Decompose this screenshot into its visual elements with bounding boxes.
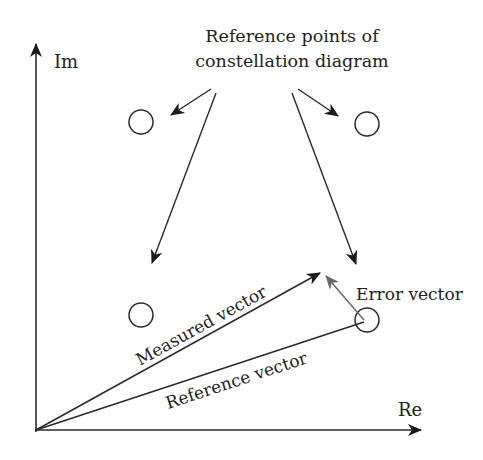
callout-arrow-bottom-left <box>152 93 216 263</box>
callout-arrow-bottom-right <box>292 93 356 264</box>
reference-point-top-left <box>129 110 153 134</box>
reference-vector-label: Reference vector <box>163 347 310 412</box>
constellation-diagram: Im Re Reference points of constellation … <box>0 0 483 460</box>
reference-vector <box>36 322 364 430</box>
diagram-canvas: Im Re Reference points of constellation … <box>0 0 483 460</box>
callout-arrow-top-left <box>171 89 211 115</box>
error-vector-label: Error vector <box>356 284 464 304</box>
measured-vector-label: Measured vector <box>132 281 270 370</box>
reference-point-bottom-right <box>355 308 379 332</box>
real-axis-label: Re <box>398 399 422 420</box>
reference-points-label-line1: Reference points of <box>205 26 380 46</box>
reference-points-label-line2: constellation diagram <box>195 51 389 71</box>
imag-axis-label: Im <box>54 51 78 72</box>
callout-arrow-top-right <box>298 89 338 116</box>
reference-point-top-right <box>355 112 379 136</box>
reference-point-bottom-left <box>129 303 153 327</box>
